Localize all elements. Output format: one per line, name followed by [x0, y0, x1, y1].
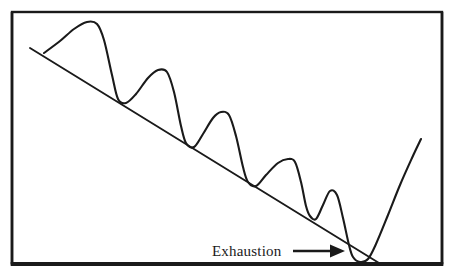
- chart-border-frame: [12, 12, 442, 264]
- exhaustion-pattern-figure: Exhaustion: [0, 0, 453, 277]
- chart-canvas: Exhaustion: [0, 0, 453, 277]
- exhaustion-label: Exhaustion: [212, 243, 282, 259]
